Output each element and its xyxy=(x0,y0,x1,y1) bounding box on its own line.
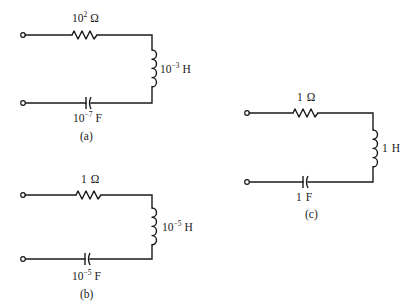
inductor-label-c: 1H xyxy=(382,142,400,154)
capacitor-label-c: 1F xyxy=(296,191,312,203)
capacitor-icon xyxy=(303,176,308,188)
terminal-bottom-c xyxy=(245,180,250,185)
capacitor-icon xyxy=(85,253,90,265)
terminal-bottom-a xyxy=(21,101,26,106)
resistor-label-c: 1Ω xyxy=(297,91,315,103)
resistor-icon xyxy=(76,191,101,199)
resistor-label-b: 1Ω xyxy=(81,173,99,185)
resistor-label-a: 102Ω xyxy=(72,10,99,24)
capacitor-label-a: 10−7F xyxy=(73,110,102,124)
caption-a: (a) xyxy=(80,130,93,143)
circuit-a: 102Ω 10−3H 10−7F (a) xyxy=(21,10,191,143)
inductor-label-b: 10−5H xyxy=(162,219,193,233)
capacitor-icon xyxy=(86,97,91,109)
inductor-icon xyxy=(373,130,378,167)
caption-c: (c) xyxy=(305,208,318,221)
caption-b: (b) xyxy=(80,288,94,301)
inductor-icon xyxy=(152,50,157,87)
resistor-icon xyxy=(293,109,318,117)
resistor-icon xyxy=(72,31,97,39)
inductor-icon xyxy=(152,208,157,245)
circuit-diagram: 102Ω 10−3H 10−7F (a) 1Ω 10−5H 10−5F (b) xyxy=(0,0,418,306)
capacitor-label-b: 10−5F xyxy=(72,268,101,282)
circuit-c: 1Ω 1H 1F (c) xyxy=(245,91,400,221)
circuit-b: 1Ω 10−5H 10−5F (b) xyxy=(21,173,193,301)
inductor-label-a: 10−3H xyxy=(160,61,191,75)
terminal-bottom-b xyxy=(21,257,26,262)
